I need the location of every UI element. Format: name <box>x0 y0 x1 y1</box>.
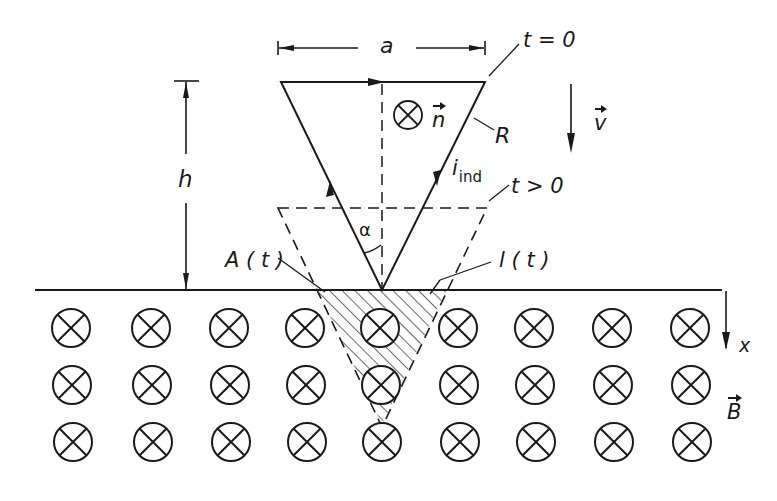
loop-initial <box>281 82 485 290</box>
current-arrows <box>326 78 441 197</box>
induced-current-label: iind <box>452 158 482 185</box>
field-into-page-icon <box>441 423 479 461</box>
velocity-label: v <box>594 113 606 134</box>
length-label: l ( t ) <box>499 250 549 271</box>
angle-arc <box>364 245 381 253</box>
normal-into-page-icon <box>394 101 422 129</box>
field-into-page-icon <box>593 309 631 347</box>
induced-current-symbol: i <box>452 156 458 180</box>
field-label: B <box>727 402 741 423</box>
field-into-page-icon <box>211 366 249 404</box>
field-into-page-icon <box>133 366 171 404</box>
field-into-page-icon <box>671 309 709 347</box>
induction-diagram <box>0 0 777 501</box>
field-into-page-icon <box>362 366 400 404</box>
time-later-label: t > 0 <box>511 176 564 197</box>
height-label: h <box>178 168 193 191</box>
field-into-page-icon <box>515 309 553 347</box>
field-into-page-icon <box>517 423 555 461</box>
field-into-page-icon <box>672 366 710 404</box>
angle-label: α <box>359 221 371 239</box>
normal-vector-text: n <box>432 110 445 131</box>
field-into-page-icon <box>288 423 326 461</box>
x-axis-label: x <box>739 336 750 355</box>
field-into-page-icon <box>595 423 633 461</box>
magnetic-field-grid <box>52 309 711 461</box>
field-into-page-icon <box>286 309 324 347</box>
field-into-page-icon <box>287 366 325 404</box>
field-into-page-icon <box>132 309 170 347</box>
field-into-page-icon <box>53 366 91 404</box>
field-into-page-icon <box>516 366 554 404</box>
area-label: A ( t ) <box>225 250 284 271</box>
velocity-text: v <box>594 113 606 134</box>
field-into-page-icon <box>361 309 399 347</box>
field-text: B <box>727 402 741 423</box>
x-axis-arrow <box>722 291 730 350</box>
velocity-arrow <box>567 84 575 153</box>
field-into-page-icon <box>210 309 248 347</box>
field-into-page-icon <box>54 423 92 461</box>
field-into-page-icon <box>134 423 172 461</box>
field-into-page-icon <box>212 423 250 461</box>
field-into-page-icon <box>440 366 478 404</box>
field-into-page-icon <box>439 309 477 347</box>
normal-vector-label: n <box>432 110 445 131</box>
field-into-page-icon <box>594 366 632 404</box>
time-initial-text: t = 0 <box>523 28 576 52</box>
resistance-label: R <box>495 125 510 147</box>
time-initial-label: t = 0 <box>523 30 576 51</box>
field-into-page-icon <box>52 309 90 347</box>
width-label: a <box>380 35 393 57</box>
field-into-page-icon <box>363 423 401 461</box>
field-into-page-icon <box>673 423 711 461</box>
induced-current-subscript: ind <box>459 168 482 186</box>
